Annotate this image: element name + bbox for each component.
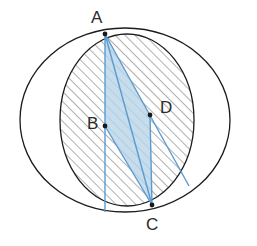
point-a-dot — [103, 32, 108, 37]
point-b-dot — [103, 124, 108, 129]
geometry-canvas — [0, 0, 257, 246]
point-label-c: C — [146, 216, 158, 233]
point-label-b: B — [87, 115, 98, 132]
point-label-a: A — [91, 9, 102, 26]
point-label-d: D — [160, 99, 172, 116]
geometry-figure: A B C D — [0, 0, 257, 246]
point-c-dot — [150, 203, 155, 208]
point-d-dot — [148, 113, 153, 118]
